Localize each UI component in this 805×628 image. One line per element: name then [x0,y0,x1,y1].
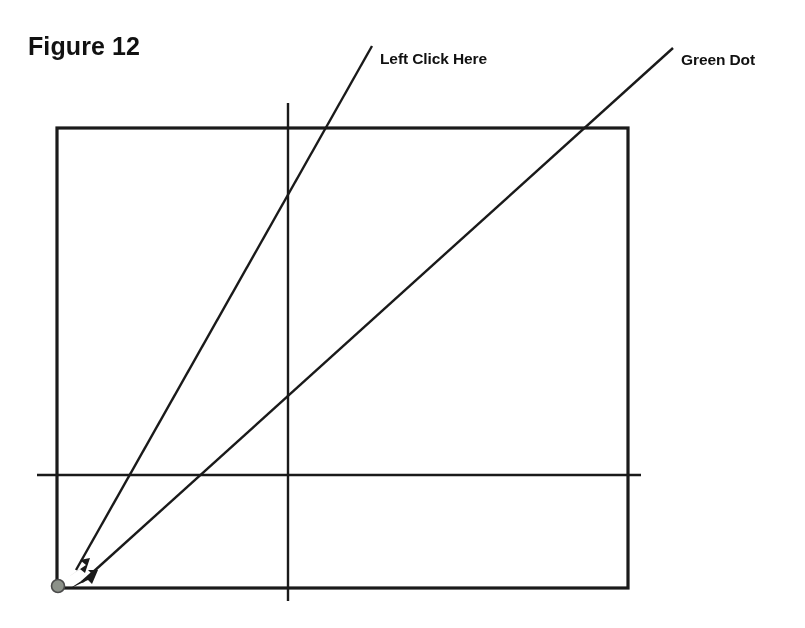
green-dot-marker[interactable] [52,580,65,593]
annotation-label-left-click-here: Left Click Here [380,50,487,68]
figure-title: Figure 12 [28,32,140,61]
figure-canvas [0,0,805,628]
annotation-label-green-dot: Green Dot [681,51,755,69]
page-background [0,0,805,628]
